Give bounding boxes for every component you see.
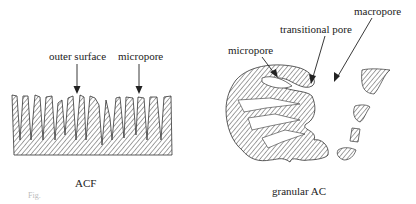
label-transitional-pore: transitional pore — [280, 24, 352, 35]
caption-acf: ACF — [75, 178, 96, 189]
arrow-micropore-acf — [136, 64, 143, 94]
arrow-outer-surface — [74, 64, 81, 94]
acf-fiber-block — [12, 95, 172, 155]
label-micropore-gac: micropore — [228, 45, 273, 56]
label-outer-surface: outer surface — [49, 51, 106, 62]
granular-ac-fragments — [337, 69, 390, 160]
figure-caption-fragment: Fig. — [28, 192, 41, 200]
label-micropore-acf: micropore — [118, 51, 163, 62]
figure: outer surface micropore ACF macropore tr… — [0, 0, 416, 204]
label-macropore: macropore — [354, 6, 401, 17]
arrow-transitional-pore — [309, 36, 325, 84]
diagram-canvas — [0, 0, 416, 204]
caption-granular-ac: granular AC — [272, 186, 326, 197]
